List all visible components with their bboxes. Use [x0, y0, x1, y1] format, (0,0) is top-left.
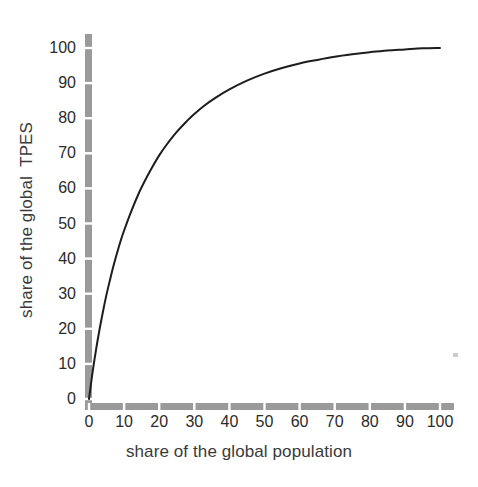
x-tick-mark: [263, 403, 265, 410]
x-axis-title: share of the global population: [0, 442, 478, 462]
y-tick-label: 50: [36, 215, 76, 233]
y-tick-mark: [85, 82, 92, 84]
y-tick-mark: [85, 187, 92, 189]
x-tick-mark: [123, 403, 125, 410]
x-tick-mark: [298, 403, 300, 410]
x-tick-mark: [88, 403, 90, 410]
y-tick-label: 20: [36, 320, 76, 338]
y-axis-title-container: share of the global TPES: [12, 0, 42, 440]
x-tick-mark: [369, 403, 371, 410]
y-tick-mark: [85, 257, 92, 259]
x-tick-mark: [158, 403, 160, 410]
y-tick-label: 80: [36, 109, 76, 127]
y-tick-label: 70: [36, 144, 76, 162]
x-axis: [85, 403, 454, 410]
y-tick-mark: [85, 328, 92, 330]
y-tick-mark: [85, 293, 92, 295]
x-tick-mark: [404, 403, 406, 410]
x-tick-mark: [439, 403, 441, 410]
y-tick-mark: [85, 47, 92, 49]
y-tick-label: 90: [36, 74, 76, 92]
chart-figure: 0102030405060708090100 01020304050607080…: [0, 0, 478, 487]
x-tick-label: 100: [418, 413, 462, 431]
series-line-cumulative-tpes: [89, 48, 440, 399]
y-axis: [85, 34, 92, 403]
y-tick-mark: [85, 117, 92, 119]
y-tick-label: 100: [36, 39, 76, 57]
y-tick-mark: [85, 222, 92, 224]
y-tick-mark: [85, 152, 92, 154]
y-tick-label: 40: [36, 250, 76, 268]
x-tick-mark: [193, 403, 195, 410]
y-axis-title: share of the global TPES: [17, 122, 37, 318]
data-series-group: [89, 48, 440, 399]
y-tick-label: 60: [36, 179, 76, 197]
scan-speck-artifact: [453, 353, 458, 357]
y-tick-label: 0: [36, 390, 76, 408]
y-tick-label: 10: [36, 355, 76, 373]
y-tick-mark: [85, 363, 92, 365]
y-tick-label: 30: [36, 285, 76, 303]
x-tick-mark: [228, 403, 230, 410]
x-tick-mark: [334, 403, 336, 410]
